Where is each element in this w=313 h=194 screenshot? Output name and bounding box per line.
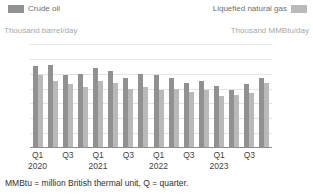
legend-item-crude-oil: Crude oil	[8, 4, 60, 13]
bar-group	[136, 44, 151, 148]
bar-lng	[113, 83, 118, 148]
bar-lng	[219, 96, 224, 148]
bar-lng	[98, 81, 103, 148]
right-axis-tick: 0	[304, 144, 313, 152]
legend-swatch-crude-oil	[8, 5, 24, 13]
x-axis-quarter-label: Q3	[237, 150, 261, 160]
right-axis-tick: 1,000	[304, 70, 313, 78]
left-axis-unit-label: Thousand barrel/day	[4, 26, 77, 35]
bar-group	[45, 44, 60, 148]
legend-label-lng: Liquefied natural gas	[213, 4, 287, 13]
x-axis-year-label: 2023	[207, 161, 231, 171]
bar-lng	[38, 75, 43, 148]
right-axis-unit-label: Thousand MMBtu/day	[231, 26, 309, 35]
bar-lng	[68, 84, 73, 148]
bar-lng	[189, 92, 194, 148]
x-axis-labels: Q12020Q3Q12021Q3Q12022Q3Q12023Q3	[30, 150, 272, 176]
x-axis-quarter-label: Q1	[26, 150, 50, 160]
right-axis-tick: 600	[304, 99, 313, 107]
bar-lng	[159, 90, 164, 148]
bar-group	[151, 44, 166, 148]
chart-legend: Crude oil Liquefied natural gas	[0, 4, 313, 18]
bar-group	[227, 44, 242, 148]
bar-lng	[83, 87, 88, 148]
right-axis-tick: 800	[304, 85, 313, 93]
bar-lng	[204, 90, 209, 148]
legend-swatch-lng	[291, 5, 307, 13]
x-axis-quarter-label: Q3	[177, 150, 201, 160]
bar-group	[30, 44, 45, 148]
bar-group	[60, 44, 75, 148]
legend-item-lng: Liquefied natural gas	[213, 4, 307, 13]
right-axis-tick: 1,400	[304, 40, 313, 48]
x-axis-quarter-label: Q3	[56, 150, 80, 160]
bar-group	[91, 44, 106, 148]
x-axis-quarter-label: Q1	[86, 150, 110, 160]
bar-lng	[174, 89, 179, 148]
x-axis-quarter-label: Q1	[147, 150, 171, 160]
bar-lng	[249, 93, 254, 148]
bar-group	[75, 44, 90, 148]
right-axis-tick: 400	[304, 114, 313, 122]
bar-lng	[264, 83, 269, 148]
right-axis-tick: 1,200	[304, 55, 313, 63]
bar-group	[257, 44, 272, 148]
bar-group	[166, 44, 181, 148]
bar-group	[212, 44, 227, 148]
bar-lng	[143, 87, 148, 148]
bar-series-group	[30, 44, 272, 148]
bar-lng	[234, 95, 239, 148]
bar-group	[181, 44, 196, 148]
x-axis-quarter-label: Q3	[116, 150, 140, 160]
right-axis-tick: 200	[304, 129, 313, 137]
legend-label-crude-oil: Crude oil	[28, 4, 60, 13]
bar-group	[121, 44, 136, 148]
chart-container: Crude oil Liquefied natural gas Thousand…	[0, 0, 313, 194]
x-axis-quarter-label: Q1	[207, 150, 231, 160]
bar-group	[242, 44, 257, 148]
axis-baseline	[30, 147, 272, 148]
bar-group	[196, 44, 211, 148]
x-axis-year-label: 2021	[86, 161, 110, 171]
x-axis-year-label: 2020	[26, 161, 50, 171]
bar-lng	[128, 89, 133, 148]
bar-group	[106, 44, 121, 148]
plot-area: 020406080100120140 02004006008001,0001,2…	[30, 44, 272, 148]
x-axis-year-label: 2022	[147, 161, 171, 171]
chart-footnote: MMBtu = million British thermal unit, Q …	[5, 178, 188, 188]
bar-lng	[53, 81, 58, 148]
